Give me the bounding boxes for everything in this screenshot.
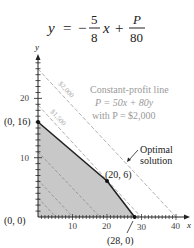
label-vertex-0-0: (0, 0) <box>4 215 26 227</box>
eq-var: x <box>102 20 110 36</box>
x-tick-40: 40 <box>171 221 181 231</box>
optimal-label-2: solution <box>140 155 172 166</box>
frac2-den: 80 <box>130 30 143 45</box>
x-tick-20: 20 <box>102 221 112 231</box>
label-2000: $2,000 <box>57 80 76 100</box>
x-tick-10: 10 <box>68 221 78 231</box>
equation: y = − 5 8 x + P 80 <box>46 12 145 45</box>
annotation: Constant-profit line P = 50x + 80y with … <box>90 84 169 121</box>
annotation-line-1: Constant-profit line <box>90 84 169 95</box>
eq-plus: + <box>115 20 123 36</box>
frac1-num: 5 <box>91 12 98 27</box>
pointer-28-0 <box>127 221 133 233</box>
vertex-28-0 <box>133 215 137 219</box>
eq-sign: = <box>63 20 71 36</box>
label-vertex-20-6: (20, 6) <box>105 169 132 181</box>
x-axis-arrow-icon <box>184 215 190 220</box>
eq-lhs: y <box>46 20 55 36</box>
y-tick-20: 20 <box>20 93 30 103</box>
label-vertex-0-16: (0, 16) <box>4 116 31 128</box>
eq-neg: − <box>78 20 86 36</box>
annotation-line-2: P = 50x + 80y <box>94 97 154 108</box>
x-axis-label: x <box>186 220 191 230</box>
label-1500: $1,500 <box>49 108 68 128</box>
optimal-pointer <box>129 150 138 160</box>
x-tick-30: 30 <box>137 222 147 232</box>
vertex-0-16 <box>36 120 40 124</box>
frac1-den: 8 <box>91 30 98 45</box>
y-axis-arrow-icon <box>36 54 41 60</box>
optimal-label-1: Optimal <box>140 144 173 155</box>
label-vertex-28-0: (28, 0) <box>107 235 134 247</box>
y-tick-10: 10 <box>20 153 30 163</box>
frac2-num: P <box>132 12 141 27</box>
chart: y = − 5 8 x + P 80 $2,000 $1,500 <box>0 0 194 248</box>
y-axis-label: y <box>34 42 39 52</box>
annotation-line-3: with P = $2,000 <box>92 110 156 121</box>
